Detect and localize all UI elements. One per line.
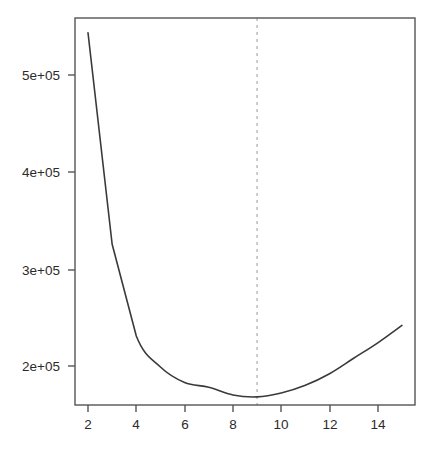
- chart-container: 2e+05 3e+05 4e+05 5e+05 2 4 6 8 10 12 14: [0, 0, 436, 454]
- plot-area-background: [75, 18, 415, 405]
- x-tick-label-8: 8: [229, 417, 237, 432]
- y-tick-label-500000: 5e+05: [22, 68, 60, 83]
- y-tick-label-200000: 2e+05: [22, 359, 60, 374]
- x-tick-label-2: 2: [84, 417, 92, 432]
- line-chart: 2e+05 3e+05 4e+05 5e+05 2 4 6 8 10 12 14: [0, 0, 436, 454]
- y-axis-ticks: [68, 75, 75, 366]
- x-tick-label-4: 4: [132, 417, 140, 432]
- y-tick-label-400000: 4e+05: [22, 165, 60, 180]
- x-tick-label-14: 14: [370, 417, 386, 432]
- y-tick-label-300000: 3e+05: [22, 263, 60, 278]
- x-axis-ticks: [88, 405, 378, 412]
- x-tick-label-6: 6: [181, 417, 189, 432]
- x-tick-label-12: 12: [322, 417, 337, 432]
- x-tick-label-10: 10: [273, 417, 288, 432]
